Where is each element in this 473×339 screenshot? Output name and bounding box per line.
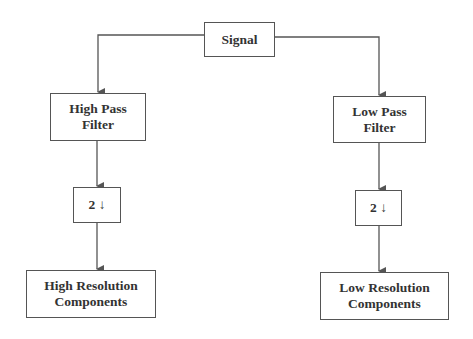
wavelet-decomposition-diagram: Signal High Pass Filter Low Pass Filter … (0, 0, 473, 339)
edge-signal-to-low-pass (275, 37, 379, 95)
signal-node: Signal (204, 22, 275, 57)
edge-signal-to-high-pass (98, 35, 204, 92)
low-pass-filter-node: Low Pass Filter (333, 96, 426, 143)
low-resolution-components-node: Low Resolution Components (320, 272, 449, 320)
downsample-left-node: 2 ↓ (73, 187, 121, 223)
downsample-right-node: 2 ↓ (355, 190, 402, 226)
high-resolution-components-node: High Resolution Components (26, 270, 156, 318)
high-pass-filter-node: High Pass Filter (50, 93, 146, 141)
